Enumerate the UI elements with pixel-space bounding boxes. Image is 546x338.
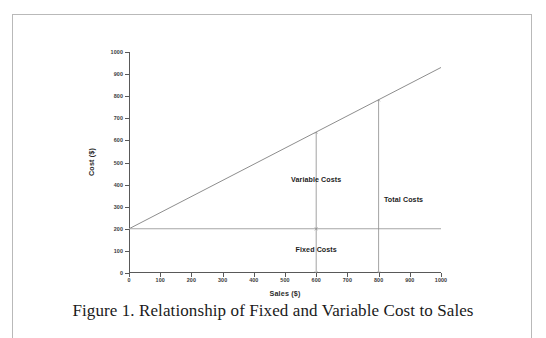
annotation-label-variable-costs: Variable Costs bbox=[291, 176, 341, 184]
y-tick-label: 400 bbox=[114, 182, 123, 188]
annotation-label-total-costs: Total Costs bbox=[384, 196, 423, 204]
figure-frame: Cost ($) 0100200300400500600700800900100… bbox=[12, 14, 532, 338]
y-axis-title: Cost ($) bbox=[87, 148, 96, 176]
y-tick-label: 0 bbox=[120, 270, 123, 276]
y-tick-label: 900 bbox=[114, 71, 123, 77]
x-tick-label: 0 bbox=[127, 277, 130, 283]
y-tick-label: 200 bbox=[114, 226, 123, 232]
y-tick-label: 1000 bbox=[111, 49, 123, 55]
figure-caption: Figure 1. Relationship of Fixed and Vari… bbox=[13, 301, 533, 321]
chart-figure: Cost ($) 0100200300400500600700800900100… bbox=[13, 15, 533, 287]
plot-area: 01002003004005006007008009001000 0100200… bbox=[129, 52, 441, 273]
y-tick-label: 500 bbox=[114, 160, 123, 166]
x-tick-label: 100 bbox=[156, 277, 165, 283]
x-tick-label: 600 bbox=[312, 277, 321, 283]
x-axis-title: Sales ($) bbox=[129, 289, 441, 298]
y-tick-label: 600 bbox=[114, 137, 123, 143]
x-tick-label: 200 bbox=[187, 277, 196, 283]
x-tick-label: 1000 bbox=[435, 277, 447, 283]
x-tick-label: 700 bbox=[343, 277, 352, 283]
y-tick-label: 300 bbox=[114, 204, 123, 210]
y-tick-label: 100 bbox=[114, 248, 123, 254]
y-tick-label: 700 bbox=[114, 115, 123, 121]
annotation-arrows bbox=[129, 52, 441, 273]
x-tick-label: 500 bbox=[280, 277, 289, 283]
annotation-label-fixed-costs: Fixed Costs bbox=[296, 246, 337, 254]
x-tick-label: 800 bbox=[374, 277, 383, 283]
y-tick-label: 800 bbox=[114, 93, 123, 99]
x-tick-label: 300 bbox=[218, 277, 227, 283]
x-tick-label: 400 bbox=[249, 277, 258, 283]
x-tick-label: 900 bbox=[405, 277, 414, 283]
